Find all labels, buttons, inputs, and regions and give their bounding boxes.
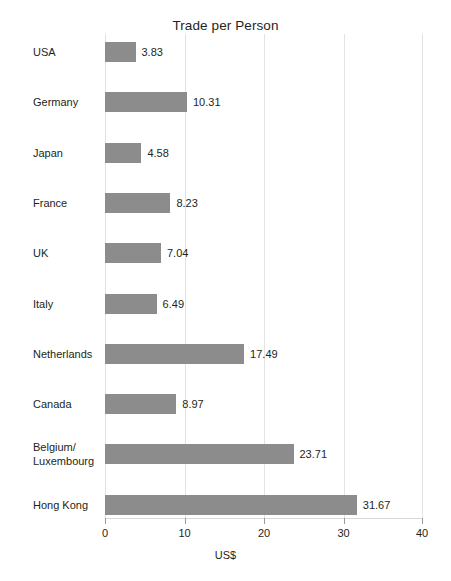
category-label-france: France xyxy=(33,197,99,211)
bar-uk xyxy=(105,243,161,263)
bar-belgium-luxembourg xyxy=(105,444,294,464)
category-label-hong-kong: Hong Kong xyxy=(33,499,99,513)
value-label-uk: 7.04 xyxy=(167,243,188,263)
value-label-usa: 3.83 xyxy=(142,42,163,62)
category-label-canada: Canada xyxy=(33,398,99,412)
bar-hong-kong xyxy=(105,495,357,515)
value-label-hong-kong: 31.67 xyxy=(363,495,391,515)
x-tick-label-0: 0 xyxy=(85,527,125,539)
x-tick-label-20: 20 xyxy=(244,527,284,539)
bar-canada xyxy=(105,394,176,414)
category-label-uk: UK xyxy=(33,247,99,261)
x-tick-10 xyxy=(185,518,186,524)
category-label-italy: Italy xyxy=(33,298,99,312)
bar-netherlands xyxy=(105,344,244,364)
value-label-canada: 8.97 xyxy=(182,394,203,414)
bar-italy xyxy=(105,294,157,314)
category-label-belgium-luxembourg: Belgium/ Luxembourg xyxy=(33,441,99,468)
category-label-germany: Germany xyxy=(33,96,99,110)
x-tick-label-40: 40 xyxy=(402,527,442,539)
x-tick-20 xyxy=(264,518,265,524)
x-tick-40 xyxy=(422,518,423,524)
bar-germany xyxy=(105,92,187,112)
chart-title: Trade per Person xyxy=(0,18,451,33)
gridline-40 xyxy=(422,34,423,518)
x-axis-title: US$ xyxy=(0,549,451,561)
value-label-belgium-luxembourg: 23.71 xyxy=(300,444,328,464)
x-tick-label-30: 30 xyxy=(324,527,364,539)
category-label-netherlands: Netherlands xyxy=(33,348,99,362)
category-label-japan: Japan xyxy=(33,147,99,161)
bar-japan xyxy=(105,143,141,163)
value-label-japan: 4.58 xyxy=(147,143,168,163)
x-tick-30 xyxy=(344,518,345,524)
value-label-italy: 6.49 xyxy=(163,294,184,314)
bar-france xyxy=(105,193,170,213)
x-tick-label-10: 10 xyxy=(165,527,205,539)
bar-chart: Trade per Person USA 3.83 Germany 10.31 … xyxy=(0,0,451,581)
value-label-germany: 10.31 xyxy=(193,92,221,112)
x-tick-0 xyxy=(105,518,106,524)
gridline-30 xyxy=(344,34,345,518)
category-label-usa: USA xyxy=(33,46,99,60)
value-label-netherlands: 17.49 xyxy=(250,344,278,364)
bar-usa xyxy=(105,42,136,62)
value-label-france: 8.23 xyxy=(176,193,197,213)
